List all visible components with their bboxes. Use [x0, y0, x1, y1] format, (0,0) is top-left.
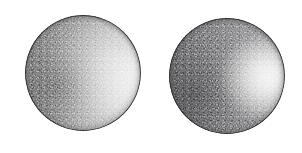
right-sphere-outline [169, 18, 285, 134]
left-sphere-outline [25, 15, 141, 131]
right-sphere [169, 18, 285, 134]
sphere-scene [0, 0, 302, 153]
left-sphere [25, 15, 141, 131]
